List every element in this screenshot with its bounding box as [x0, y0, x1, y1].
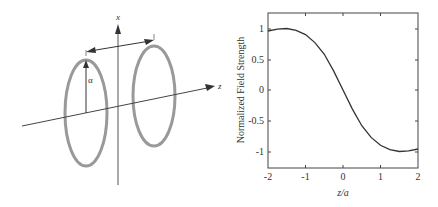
field-curve [268, 29, 418, 152]
y-tick-1: 1 [259, 23, 264, 34]
field-plot: 1 0.5 0 -0.5 -1 -2 -1 0 1 2 z/a Normaliz… [235, 13, 421, 198]
y-tick-0.5: 0.5 [252, 54, 265, 65]
x-axis-label: x [115, 12, 120, 22]
x-axis-arrow-icon [115, 24, 121, 34]
x-tick-2: 2 [416, 171, 421, 182]
y-axis-title: Normalized Field Strength [235, 37, 246, 144]
coil-diagram: x z α [22, 12, 222, 185]
y-tick-neg1: -1 [256, 146, 264, 157]
separation-arrow-left-icon [86, 47, 96, 53]
x-tick-1: 1 [378, 171, 383, 182]
z-axis-line [22, 87, 212, 126]
x-tick-neg1: -1 [301, 171, 309, 182]
separation-line [90, 41, 150, 51]
z-axis-label: z [217, 81, 222, 91]
x-tick-0: 0 [341, 171, 346, 182]
z-axis-arrow-icon [205, 84, 215, 91]
y-tick-neg0.5: -0.5 [248, 115, 264, 126]
separation-arrow-right-icon [144, 39, 154, 45]
x-tick-neg2: -2 [264, 171, 272, 182]
figure: x z α 1 [0, 0, 438, 207]
x-axis-title: z/a [336, 187, 349, 198]
y-tick-0: 0 [259, 84, 264, 95]
radius-label: α [88, 75, 93, 85]
